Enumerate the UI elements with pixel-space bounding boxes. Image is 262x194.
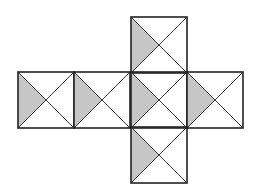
face-right [187, 72, 243, 128]
shaded-triangle [187, 72, 215, 128]
shaded-triangle [18, 72, 46, 128]
shaded-triangle [131, 17, 159, 73]
shaded-triangle [131, 72, 159, 128]
face-bottom [131, 127, 187, 183]
face-left-1 [18, 72, 74, 128]
shaded-triangle [131, 127, 159, 183]
face-top [131, 17, 187, 73]
face-left-2 [74, 72, 130, 128]
cube-net-diagram [0, 0, 262, 194]
face-center [131, 72, 187, 128]
shaded-triangle [74, 72, 102, 128]
